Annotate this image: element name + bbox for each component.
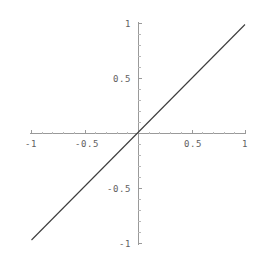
plot-background (0, 0, 268, 261)
y-tick-label-pos-one: 1 (104, 19, 131, 29)
y-tick-label-neg-one: -1 (101, 239, 131, 249)
x-tick-label-neg-half: -0.5 (67, 139, 107, 149)
y-tick-label-neg-half: -0.5 (91, 184, 131, 194)
plot-canvas (0, 0, 268, 261)
plot-figure: -1 -0.5 0.5 1 1 0.5 -0.5 -1 (0, 0, 268, 261)
y-tick-label-pos-half: 0.5 (96, 74, 131, 84)
x-tick-label-pos-one: 1 (234, 139, 256, 149)
x-tick-label-neg-one: -1 (19, 139, 43, 149)
x-tick-label-pos-half: 0.5 (176, 139, 210, 149)
